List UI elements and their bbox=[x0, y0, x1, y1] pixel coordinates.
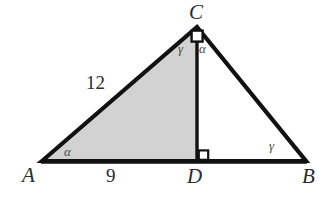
vertex-label-c: C bbox=[189, 2, 203, 23]
right-angle-marker-d bbox=[199, 150, 208, 159]
side-ac-length: 12 bbox=[86, 73, 105, 92]
angle-b-gamma: γ bbox=[269, 139, 274, 152]
figure-canvas bbox=[0, 0, 327, 199]
vertex-label-b: B bbox=[302, 166, 315, 187]
geometry-figure: C A D B 12 9 α γ α γ bbox=[0, 0, 327, 199]
vertex-label-a: A bbox=[22, 165, 35, 186]
angle-a-alpha: α bbox=[64, 145, 71, 158]
right-angle-marker-c bbox=[192, 31, 203, 42]
side-ad-length: 9 bbox=[106, 166, 116, 185]
angle-acd-gamma: γ bbox=[178, 42, 183, 55]
angle-bcd-alpha: α bbox=[199, 42, 206, 55]
vertex-label-d: D bbox=[187, 166, 202, 187]
